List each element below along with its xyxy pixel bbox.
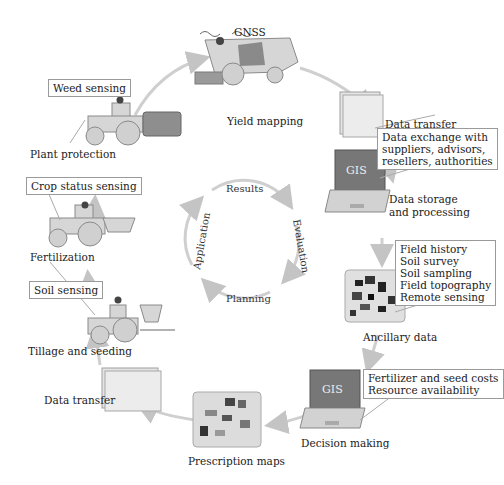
prescription-maps-label: Prescription maps — [188, 455, 285, 467]
yield-mapping-label: Yield mapping — [227, 115, 303, 127]
data-exchange-callout: Data exchange with suppliers, advisors, … — [377, 128, 498, 170]
tractor-spreader-icon — [49, 202, 135, 248]
soil-sensing-callout: Soil sensing — [29, 281, 103, 299]
gis-screen-text-2: GIS — [322, 383, 343, 396]
weed-sensing-callout: Weed sensing — [48, 79, 131, 97]
combine-harvester-icon — [195, 32, 298, 86]
ancillary-data-label: Ancillary data — [363, 331, 437, 343]
decision-making-label: Decision making — [301, 437, 389, 449]
plant-protection-label: Plant protection — [30, 148, 116, 160]
data-storage-label-2: and processing — [389, 206, 470, 218]
cycle-label-application: Application — [191, 211, 212, 271]
prescription-map-icon — [193, 392, 261, 447]
gis-screen-text-1: GIS — [346, 164, 367, 177]
cycle-label-results: Results — [226, 183, 263, 194]
cycle-label-planning: Planning — [226, 293, 271, 304]
data-storage-label-1: Data storage — [389, 193, 458, 205]
tractor-sprayer-icon — [86, 97, 181, 146]
fertilization-label: Fertilization — [30, 251, 95, 263]
crop-status-sensing-callout: Crop status sensing — [26, 177, 142, 195]
tractor-seeder-icon — [88, 297, 175, 345]
ancillary-callout: Field history Soil survey Soil sampling … — [395, 240, 496, 306]
gnss-label: GNSS — [234, 26, 266, 38]
tillage-seeding-label: Tillage and seeding — [28, 345, 132, 357]
data-transfer-bottom-label: Data transfer — [44, 394, 115, 406]
decision-callout: Fertilizer and seed costs Resource avail… — [363, 369, 504, 399]
laptop-icon-decision — [300, 370, 365, 428]
